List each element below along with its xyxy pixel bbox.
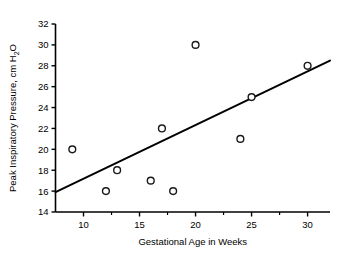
- data-point: [170, 188, 177, 195]
- x-axis-tick-label: 10: [78, 219, 89, 230]
- y-axis-tick-label: 24: [38, 102, 49, 113]
- y-axis-tick-label: 20: [38, 144, 49, 155]
- data-point: [248, 94, 255, 101]
- plot-canvas: 14161820222426283032 1015202530 Gestatio…: [0, 0, 339, 254]
- data-point: [237, 135, 244, 142]
- y-axis-tick-label: 18: [38, 165, 49, 176]
- data-point: [159, 125, 166, 132]
- y-axis-tick-label: 30: [38, 39, 49, 50]
- x-axis-tick-label: 30: [302, 219, 313, 230]
- y-axis-tick-label: 14: [38, 206, 49, 217]
- data-point: [304, 62, 311, 69]
- data-point: [192, 41, 199, 48]
- x-axis-tick-label: 15: [134, 219, 145, 230]
- x-axis-tick-label: 20: [190, 219, 201, 230]
- y-axis-tick-label: 32: [38, 18, 49, 29]
- scatter-plot-figure: 14161820222426283032 1015202530 Gestatio…: [0, 0, 339, 254]
- data-point: [103, 188, 110, 195]
- y-axis-tick-label: 28: [38, 60, 49, 71]
- chart-background: [0, 0, 339, 254]
- x-axis-title: Gestational Age in Weeks: [138, 236, 247, 247]
- y-axis-tick-label: 16: [38, 186, 49, 197]
- y-axis-tick-label: 26: [38, 81, 49, 92]
- y-axis-title-suffix: O: [7, 44, 18, 51]
- data-point: [147, 177, 154, 184]
- data-point: [114, 167, 121, 174]
- x-axis-tick-label: 25: [246, 219, 257, 230]
- y-axis-tick-label: 22: [38, 123, 49, 134]
- data-point: [69, 146, 76, 153]
